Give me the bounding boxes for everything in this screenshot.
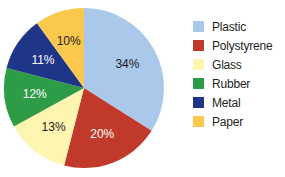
legend-item-metal: Metal [193, 93, 273, 112]
legend-label: Plastic [212, 20, 246, 34]
legend-swatch [193, 97, 204, 108]
legend-swatch [193, 116, 204, 127]
legend-swatch [193, 78, 204, 89]
slice-label: 10% [57, 34, 81, 48]
slice-label: 34% [115, 57, 139, 71]
legend: Plastic Polystyrene Glass Rubber Metal P… [193, 17, 273, 131]
legend-item-rubber: Rubber [193, 74, 273, 93]
slice-label: 12% [23, 87, 47, 101]
legend-item-plastic: Plastic [193, 17, 273, 36]
slice-label: 13% [42, 120, 66, 134]
legend-swatch [193, 59, 204, 70]
legend-item-paper: Paper [193, 112, 273, 131]
pie-chart: 34%20%13%12%11%10% [0, 0, 180, 177]
legend-label: Paper [212, 115, 243, 129]
legend-label: Rubber [212, 77, 250, 91]
legend-label: Glass [212, 58, 242, 72]
legend-swatch [193, 40, 204, 51]
slice-label: 11% [31, 53, 54, 67]
legend-label: Polystyrene [212, 39, 273, 53]
legend-label: Metal [212, 96, 240, 110]
slice-label: 20% [90, 127, 114, 141]
legend-swatch [193, 21, 204, 32]
legend-item-polystyrene: Polystyrene [193, 36, 273, 55]
legend-item-glass: Glass [193, 55, 273, 74]
